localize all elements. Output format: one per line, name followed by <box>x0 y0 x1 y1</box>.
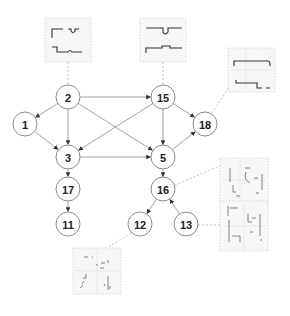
edge-15-to-18 <box>173 104 194 118</box>
edge-13-to-16 <box>170 199 180 214</box>
node-2[interactable]: 2 <box>56 85 80 109</box>
edge-2-to-1 <box>36 103 58 117</box>
edge-5-to-18 <box>172 132 195 150</box>
node-15[interactable]: 15 <box>151 85 175 109</box>
node-label: 1 <box>22 119 28 131</box>
node-label: 11 <box>62 219 74 231</box>
node-16[interactable]: 16 <box>151 177 175 201</box>
node-12[interactable]: 12 <box>128 212 152 236</box>
thumbnail-node-15[interactable] <box>140 18 186 62</box>
node-18[interactable]: 18 <box>193 112 217 136</box>
thumbnail-node-18[interactable] <box>228 48 275 92</box>
node-1[interactable]: 1 <box>13 112 37 136</box>
thumbnail-node-13[interactable] <box>220 201 268 251</box>
edge-1-to-3 <box>35 131 59 149</box>
graph-canvas: 215118351716111213 <box>0 0 290 316</box>
link-16-thumb <box>175 165 222 185</box>
thumbnail-node-12[interactable] <box>73 248 121 294</box>
node-3[interactable]: 3 <box>56 145 80 169</box>
node-11[interactable]: 11 <box>56 212 80 236</box>
node-label: 13 <box>180 219 192 231</box>
node-13[interactable]: 13 <box>174 212 198 236</box>
node-label: 5 <box>160 152 166 164</box>
node-label: 17 <box>62 184 74 196</box>
node-label: 2 <box>65 92 71 104</box>
node-label: 12 <box>134 219 146 231</box>
node-label: 18 <box>199 119 211 131</box>
node-17[interactable]: 17 <box>56 177 80 201</box>
node-label: 16 <box>157 184 169 196</box>
graph-nodes: 215118351716111213 <box>13 85 217 236</box>
node-5[interactable]: 5 <box>151 145 175 169</box>
node-label: 3 <box>65 152 71 164</box>
thumbnail-node-2[interactable] <box>45 18 91 62</box>
edge-16-to-12 <box>147 199 157 214</box>
thumbnail-node-16[interactable] <box>220 158 268 204</box>
node-label: 15 <box>157 92 169 104</box>
